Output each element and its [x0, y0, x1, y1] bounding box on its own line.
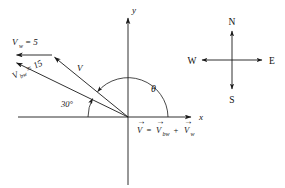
equation-lhs: V [137, 125, 144, 135]
equation-term1-sub: bw [163, 131, 170, 137]
angle-30-label: 30° [60, 99, 74, 109]
diagram-canvas: x y V w = 5 V bw = 15 V 30° [0, 0, 285, 188]
vector-labels-group: V w = 5 V bw = 15 V [11, 37, 84, 82]
angle-theta-label: θ [151, 83, 156, 94]
compass-east-label: E [269, 56, 275, 66]
label-vbw: V bw = 15 [11, 58, 46, 83]
equation-group: → V = → V bw + → V w [137, 116, 195, 137]
equation-equals: = [146, 125, 152, 135]
label-vw-value: = 5 [25, 37, 38, 47]
equation-term2-sub: w [191, 131, 195, 137]
y-axis-label: y [131, 5, 136, 15]
angle-theta-arc [98, 78, 168, 117]
vector-diagram-figure: x y V w = 5 V bw = 15 V 30° [0, 0, 285, 188]
label-vw: V w = 5 [12, 37, 38, 49]
angle-30-arc [88, 99, 93, 117]
equation-plus: + [173, 125, 179, 135]
angle-arcs-group: 30° θ [60, 78, 168, 117]
x-axis-label: x [198, 112, 203, 122]
compass-south-label: S [229, 95, 234, 105]
compass-west-label: W [188, 56, 197, 66]
compass-north-label: N [229, 17, 236, 27]
axes-group: x y [18, 5, 203, 185]
label-v-resultant: V [77, 63, 84, 73]
label-vw-sub: w [19, 43, 23, 49]
label-vw-base: V [12, 37, 19, 47]
compass-rose: N S E W [188, 17, 276, 105]
